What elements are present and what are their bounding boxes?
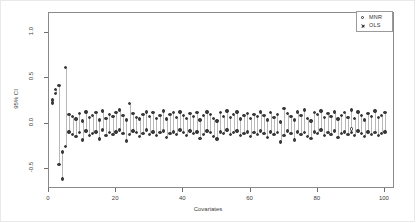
ci-upper-point [168,113,171,116]
ci-segment [267,120,268,137]
x-tick-label: 40 [170,195,194,201]
ci-segment [197,113,198,132]
legend-label-mnr: MNR [369,15,382,21]
ci-upper-point [54,88,57,91]
ci-upper-point [81,119,84,122]
legend-entry-mnr: MNR [360,14,390,22]
ci-segment [227,111,228,130]
ci-upper-point [155,117,158,120]
ci-lower-point [155,134,158,137]
ci-lower-point [54,92,57,95]
ci-lower-point [145,128,148,131]
ci-upper-point [148,115,151,118]
ci-upper-point [91,114,94,117]
ci-upper-point [145,110,148,113]
ci-upper-point [289,115,292,118]
y-tick-label: 0.5 [28,67,34,85]
ci-upper-point [138,117,141,120]
x-tick [317,188,318,192]
x-tick-label: 80 [305,195,329,201]
data-layer [49,13,393,187]
ci-lower-point-mnr [350,127,353,130]
ci-segment [338,119,339,137]
ci-upper-point [94,111,97,114]
ci-segment [348,117,349,134]
ci-upper-point [222,115,225,118]
ci-segment [331,116,332,134]
ci-segment [123,116,124,134]
legend[interactable]: MNR OLS [356,11,393,32]
ci-segment [355,118,356,135]
plot-panel [48,12,394,188]
ci-lower-point [198,137,201,140]
ci-segment [106,118,107,135]
ci-segment [358,112,359,131]
ci-lower-point [151,130,154,133]
ci-upper-point [309,119,312,122]
ci-lower-point [235,129,238,132]
ci-upper-point [219,111,222,114]
ci-lower-point [222,132,225,135]
ci-lower-point [94,130,97,133]
ci-upper-point [279,120,282,123]
ci-upper-point [346,116,349,119]
ci-lower-point [128,133,131,136]
ci-lower-point [185,134,188,137]
ci-upper-point [242,114,245,117]
ci-lower-point [373,131,376,134]
ci-lower-point [289,132,292,135]
ci-upper-point [61,150,64,153]
ci-upper-point [319,109,322,112]
ci-segment [375,111,376,133]
x-tick-label: 0 [36,195,60,201]
ci-upper-point [78,112,81,115]
ci-upper-point [370,115,373,118]
ci-upper-point [131,112,134,115]
ci-upper-point [158,114,161,117]
ci-upper-point [383,111,386,114]
ci-upper-point [272,116,275,119]
ci-upper-point [101,109,104,112]
ci-upper-point [111,115,114,118]
ci-segment [86,112,87,131]
ci-lower-point [202,133,205,136]
ci-segment [163,111,164,131]
ci-upper-point [360,114,363,117]
ci-upper-point [141,113,144,116]
ci-lower-point [121,132,124,135]
ci-segment [146,112,147,130]
ci-segment [200,120,201,138]
ci-segment [244,116,245,134]
ci-lower-point [272,133,275,136]
ci-lower-point [246,130,249,133]
x-tick-label: 20 [103,195,127,201]
ci-segment [277,115,278,133]
ci-upper-point [192,115,195,118]
ci-lower-point [64,145,67,148]
y-tick-label: 1.0 [28,22,34,40]
ci-upper-point [343,111,346,114]
x-tick-label: 60 [238,195,262,201]
ci-segment [177,117,178,134]
ci-segment [76,119,77,136]
ci-lower-point [266,136,269,139]
ci-segment [311,121,312,138]
ci-segment [143,115,144,134]
ci-upper-point [162,109,165,112]
ci-lower-point [319,128,322,131]
ci-lower-point [383,130,386,133]
ci-upper-point [125,118,128,121]
ci-lower-point [138,135,141,138]
ci-upper-point [185,117,188,120]
ci-upper-point [293,118,296,121]
ci-lower-point [101,128,104,131]
legend-label-ols: OLS [369,23,381,29]
ci-upper-point [299,114,302,117]
ci-upper-point [118,108,121,111]
ci-upper-point [380,114,383,117]
ci-upper-point [84,110,87,113]
ci-segment [368,114,369,132]
ci-upper-point [229,116,232,119]
ci-upper-point [246,112,249,115]
ci-upper-point [178,110,181,113]
